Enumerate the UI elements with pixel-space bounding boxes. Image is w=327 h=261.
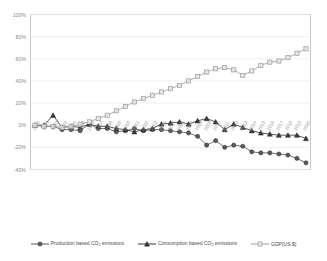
- y-axis-tick-label: 60%: [0, 56, 26, 62]
- y-axis-tick-label: 80%: [0, 34, 26, 40]
- legend-item-gdp[interactable]: GDP(US $): [251, 240, 296, 248]
- chart-container: -40%-20%0%20%40%60%80%100% 1990199119921…: [0, 0, 327, 261]
- legend-label: Consumption based CO2 emissions: [158, 241, 237, 247]
- legend-marker-icon: [138, 240, 156, 248]
- y-axis-tick-label: -40%: [0, 167, 26, 173]
- data-point-marker: [38, 242, 42, 246]
- legend-marker-icon: [251, 240, 269, 248]
- y-axis-tick-label: 40%: [0, 78, 26, 84]
- y-axis-tick-label: -20%: [0, 144, 26, 150]
- data-point-marker: [258, 242, 262, 246]
- legend-item-production[interactable]: Production based CO2 emissions: [31, 240, 124, 248]
- legend-label: GDP(US $): [271, 242, 296, 247]
- y-axis-tick-label: 0%: [0, 122, 26, 128]
- plot-area: [30, 14, 311, 170]
- y-axis-tick-label: 20%: [0, 100, 26, 106]
- chart-legend: Production based CO2 emissionsConsumptio…: [0, 240, 327, 248]
- y-axis-tick-label: 100%: [0, 12, 26, 18]
- legend-label: Production based CO2 emissions: [51, 241, 124, 247]
- legend-item-consumption[interactable]: Consumption based CO2 emissions: [138, 240, 237, 248]
- legend-marker-icon: [31, 240, 49, 248]
